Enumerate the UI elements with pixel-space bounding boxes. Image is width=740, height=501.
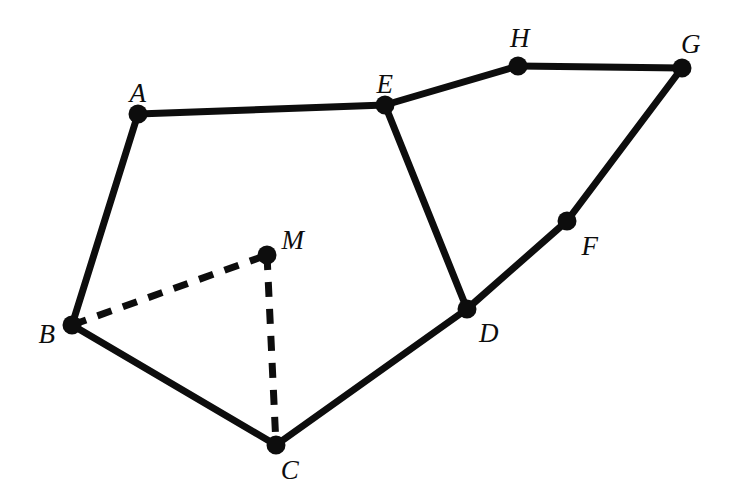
edge-B-C [72, 325, 276, 445]
edge-F-D [467, 221, 567, 309]
edge-E-H [385, 66, 518, 105]
edge-C-D [276, 309, 467, 445]
edge-A-E [138, 105, 385, 114]
edge-B-M [72, 255, 267, 325]
vertex-label-b: B [39, 321, 56, 348]
edge-M-C [267, 255, 276, 445]
vertex-dot-d[interactable] [458, 300, 477, 319]
edge-A-B [72, 114, 138, 325]
vertex-label-f: F [582, 233, 599, 260]
edge-H-G [518, 66, 682, 68]
edge-D-E [385, 105, 467, 309]
vertex-dot-f[interactable] [558, 212, 577, 231]
diagram-canvas [0, 0, 740, 501]
vertex-dot-m[interactable] [258, 246, 277, 265]
vertex-dot-h[interactable] [509, 57, 528, 76]
vertex-dot-c[interactable] [267, 436, 286, 455]
vertex-dot-b[interactable] [63, 316, 82, 335]
vertex-label-e: E [377, 71, 394, 98]
vertex-label-h: H [510, 25, 530, 52]
vertex-label-c: C [281, 457, 300, 484]
vertex-label-g: G [681, 31, 701, 58]
vertex-label-m: M [282, 227, 305, 254]
vertex-label-d: D [479, 320, 499, 347]
vertex-label-a: A [130, 80, 147, 107]
geometry-diagram: ABCDEFGHM [0, 0, 740, 501]
vertex-dot-g[interactable] [673, 59, 692, 78]
edge-G-F [567, 68, 682, 221]
